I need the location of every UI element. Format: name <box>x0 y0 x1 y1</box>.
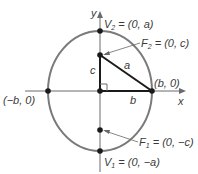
x-axis-label: x <box>177 95 184 107</box>
f2-pointer-arrow-icon <box>103 51 110 55</box>
vertex-v1-point <box>97 148 103 154</box>
y-axis-arrow-icon <box>97 11 103 18</box>
origin-point <box>97 88 103 94</box>
vertex-v2-point <box>97 28 103 34</box>
f1-label: F1 = (0, −c) <box>139 136 194 149</box>
v2-label: V2 = (0, a) <box>104 18 154 31</box>
focus-f1-point <box>97 127 103 133</box>
side-a-label: a <box>124 59 130 71</box>
b-pos-point <box>149 88 155 94</box>
b-pos-label: (b, 0) <box>154 77 180 89</box>
b-neg-label: (−b, 0) <box>3 94 35 106</box>
x-axis-arrow-icon <box>179 88 186 94</box>
f1-pointer-arrow-icon <box>103 130 110 134</box>
f2-pointer <box>105 43 140 54</box>
ellipse-diagram: y x V2 = (0, a) F2 = (0, c) c a b (b, 0)… <box>0 0 198 174</box>
focus-f2-point <box>97 52 103 58</box>
b-neg-point <box>45 88 51 94</box>
side-b-label: b <box>130 94 136 106</box>
f2-label: F2 = (0, c) <box>141 37 190 50</box>
v1-label: V1 = (0, −a) <box>104 156 160 169</box>
side-c-label: c <box>90 64 96 76</box>
y-axis-label: y <box>90 7 98 19</box>
